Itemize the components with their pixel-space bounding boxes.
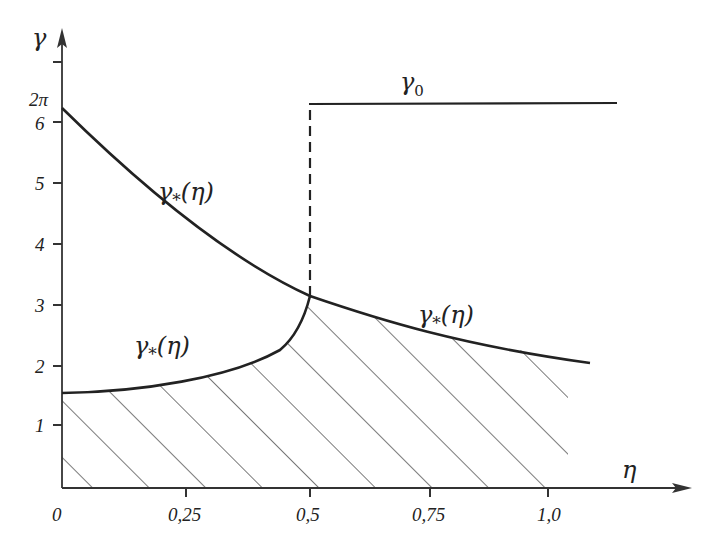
svg-text:0,5: 0,5 xyxy=(296,504,320,525)
y-ticks xyxy=(53,62,62,425)
x-tick-labels: 0 0,25 0,5 0,75 1,0 xyxy=(52,504,561,525)
svg-text:0: 0 xyxy=(52,504,62,525)
svg-text:1: 1 xyxy=(35,415,45,436)
svg-text:4: 4 xyxy=(35,234,45,255)
svg-text:γ*(η): γ*(η) xyxy=(134,332,190,364)
svg-text:5: 5 xyxy=(35,173,45,194)
svg-text:6: 6 xyxy=(35,113,45,134)
x-axis-label: η xyxy=(622,456,637,484)
stability-diagram: 1 2 3 4 5 6 2π 0 0,25 0,5 0,75 1,0 γ η γ… xyxy=(0,0,708,550)
y-tick-labels: 1 2 3 4 5 6 2π xyxy=(29,89,49,436)
x-ticks xyxy=(186,488,548,497)
svg-text:γ0: γ0 xyxy=(400,68,424,100)
svg-text:2: 2 xyxy=(35,356,45,377)
svg-text:0,75: 0,75 xyxy=(412,504,445,525)
label-gamma0: γ0 xyxy=(400,68,424,100)
svg-text:3: 3 xyxy=(34,295,45,316)
label-upper-curve: γ*(η) xyxy=(158,178,214,210)
label-right-curve: γ*(η) xyxy=(418,301,474,333)
svg-text:0,25: 0,25 xyxy=(168,504,201,525)
svg-text:γ*(η): γ*(η) xyxy=(418,301,474,333)
svg-text:γ*(η): γ*(η) xyxy=(158,178,214,210)
gamma0-line xyxy=(309,103,617,104)
y-axis-label: γ xyxy=(32,24,47,52)
svg-text:2π: 2π xyxy=(29,89,49,110)
svg-text:1,0: 1,0 xyxy=(537,504,561,525)
label-lower-curve: γ*(η) xyxy=(134,332,190,364)
hatched-region xyxy=(62,280,572,488)
